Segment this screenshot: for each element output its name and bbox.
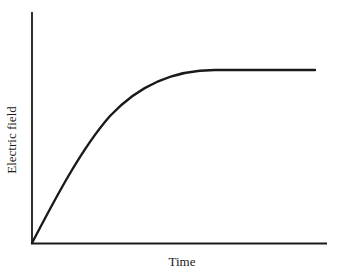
- y-axis-label: Electric field: [4, 106, 19, 174]
- data-curve: [32, 70, 315, 243]
- x-axis-label: Time: [169, 254, 196, 269]
- chart: Time Electric field: [0, 0, 340, 278]
